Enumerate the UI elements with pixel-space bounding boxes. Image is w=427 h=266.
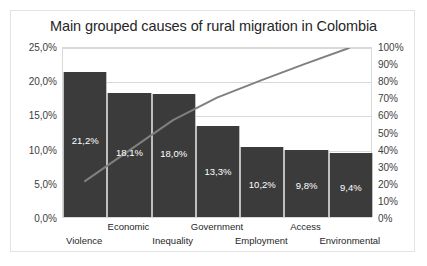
- bar-data-label: 9,4%: [340, 182, 362, 193]
- bar-data-label: 18,1%: [116, 147, 143, 158]
- y-axis-left-tick-label: 25,0%: [29, 42, 62, 53]
- y-axis-right-tick-label: 40%: [372, 144, 398, 155]
- y-axis-left-tick-label: 10,0%: [29, 144, 62, 155]
- plot-area: 21,2%18,1%18,0%13,3%10,2%9,8%9,4%: [62, 47, 372, 218]
- y-axis-right-tick-label: 0%: [372, 213, 392, 224]
- y-axis-right: 0%10%20%30%40%50%60%70%80%90%100%: [372, 47, 416, 218]
- x-axis-category-label: Employment: [235, 235, 288, 246]
- y-axis-right-tick-label: 30%: [372, 161, 398, 172]
- y-axis-right-tick-label: 50%: [372, 127, 398, 138]
- bar-data-label: 13,3%: [205, 166, 232, 177]
- x-axis-category-label: Economic: [108, 221, 150, 232]
- y-axis-right-tick-label: 20%: [372, 178, 398, 189]
- y-axis-left-tick-label: 5,0%: [34, 178, 62, 189]
- y-axis-right-tick-label: 80%: [372, 76, 398, 87]
- x-axis-category-label: Inequality: [152, 235, 193, 246]
- x-axis-category-label: Access: [290, 221, 321, 232]
- y-axis-left: 0,0%5,0%10,0%15,0%20,0%25,0%: [11, 47, 62, 218]
- y-axis-left-tick-label: 20,0%: [29, 76, 62, 87]
- chart-frame: Main grouped causes of rural migration i…: [10, 10, 415, 252]
- x-axis-category-label: Government: [191, 221, 243, 232]
- y-axis-right-tick-label: 90%: [372, 59, 398, 70]
- x-axis-category-label: Environmental: [319, 235, 380, 246]
- y-axis-right-tick-label: 10%: [372, 195, 398, 206]
- bar-data-label: 21,2%: [72, 135, 99, 146]
- x-axis: ViolenceEconomicInequalityGovernmentEmpl…: [62, 219, 372, 253]
- y-axis-left-tick-label: 15,0%: [29, 110, 62, 121]
- y-axis-right-tick-label: 100%: [372, 42, 404, 53]
- x-axis-category-label: Violence: [66, 235, 102, 246]
- y-axis-right-tick-label: 70%: [372, 93, 398, 104]
- y-axis-right-tick-label: 60%: [372, 110, 398, 121]
- bar-data-label: 9,8%: [296, 180, 318, 191]
- chart-title: Main grouped causes of rural migration i…: [11, 18, 416, 34]
- bar-data-label: 10,2%: [249, 179, 276, 190]
- bar-data-labels: 21,2%18,1%18,0%13,3%10,2%9,8%9,4%: [63, 48, 371, 217]
- bar-data-label: 18,0%: [160, 148, 187, 159]
- y-axis-left-tick-label: 0,0%: [34, 213, 62, 224]
